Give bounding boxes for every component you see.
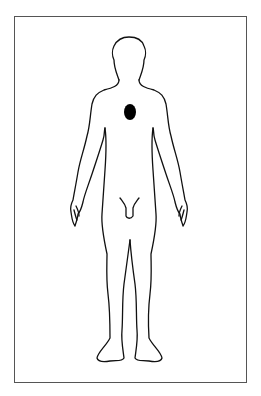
body-outline-diagram bbox=[0, 0, 261, 396]
head-outline bbox=[113, 37, 146, 80]
left-torso-leg bbox=[97, 128, 130, 362]
right-torso-leg bbox=[130, 128, 162, 362]
groin-outline bbox=[120, 198, 139, 218]
right-body-outline bbox=[139, 80, 187, 226]
left-body-outline bbox=[71, 80, 119, 226]
chest-mark bbox=[124, 104, 136, 120]
left-hand-detail bbox=[74, 206, 79, 220]
right-hand-detail bbox=[179, 206, 184, 220]
